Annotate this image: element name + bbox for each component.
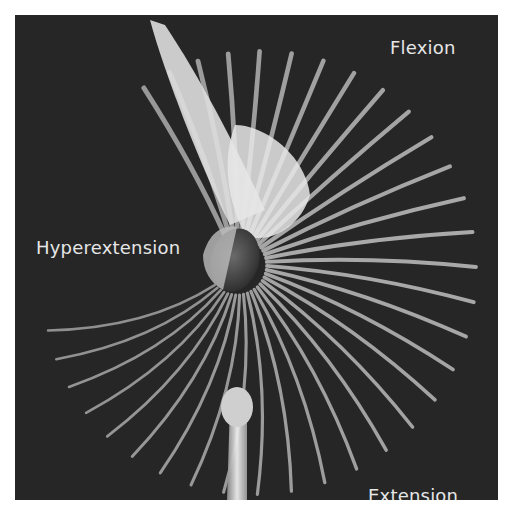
hyperextension-label: Hyperextension bbox=[36, 237, 180, 258]
image-panel: Flexion Hyperextension Extension bbox=[15, 15, 498, 500]
flexion-label: Flexion bbox=[390, 37, 456, 58]
extension-label: Extension bbox=[368, 485, 458, 500]
